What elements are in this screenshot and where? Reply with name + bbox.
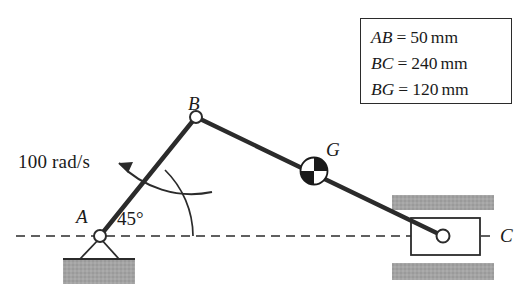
lower-guide-rail [392, 263, 494, 280]
label-point-a: A [76, 207, 88, 226]
center-of-mass-icon [301, 158, 328, 185]
label-point-c: C [500, 226, 513, 245]
dimension-symbol: AB [371, 27, 392, 47]
label-angular-velocity: 100 rad/s [18, 152, 90, 171]
dimension-equals: = [392, 27, 410, 47]
dimension-symbol: BG [371, 79, 394, 99]
label-point-g: G [326, 140, 340, 159]
mechanism-figure: A B G C 100 rad/s 45° AB=50mm BC=240mm B… [0, 0, 530, 296]
joint-a [94, 230, 106, 242]
dimension-equals: = [394, 79, 412, 99]
dimension-value: 240 [411, 53, 437, 73]
dimension-equals: = [393, 53, 411, 73]
dimension-unit: mm [438, 79, 468, 99]
dimension-value: 50 [410, 27, 428, 47]
dimension-unit: mm [438, 53, 468, 73]
joint-c [437, 230, 450, 243]
ground-block [63, 259, 135, 284]
link-ab [100, 117, 196, 236]
label-angle: 45° [117, 209, 144, 228]
angle-arc [165, 170, 193, 236]
dimension-row: AB=50mm [371, 24, 511, 50]
curved-rotation-arrow-icon [119, 162, 212, 194]
dimension-row: BC=240mm [371, 50, 511, 76]
dimensions-box: AB=50mm BC=240mm BG=120mm [360, 18, 512, 104]
dimension-value: 120 [412, 79, 438, 99]
dimension-unit: mm [428, 27, 458, 47]
upper-guide-rail [392, 195, 494, 210]
dimension-row: BG=120mm [371, 76, 511, 102]
dimension-symbol: BC [371, 53, 393, 73]
label-point-b: B [188, 94, 200, 113]
